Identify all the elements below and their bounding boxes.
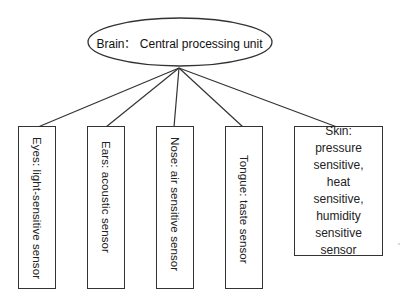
node-nose: Nose: air sensitive sensor <box>156 126 194 289</box>
link-nose <box>174 68 179 127</box>
scan-artifact <box>398 243 400 245</box>
node-tongue-label: Tongue: taste sensor <box>238 137 250 264</box>
node-ears: Ears: acoustic sensor <box>87 126 125 289</box>
root-label: Brain： Central processing unit <box>96 34 262 51</box>
link-skin <box>179 68 337 127</box>
node-tongue: Tongue: taste sensor <box>225 126 263 289</box>
node-eyes-label: Eyes: light-sensitive sensor <box>31 137 43 279</box>
node-skin-label: Skin: pressure sensitive, heat sensitive… <box>295 123 382 259</box>
node-ears-label: Ears: acoustic sensor <box>100 137 112 253</box>
node-eyes: Eyes: light-sensitive sensor <box>18 126 56 289</box>
link-tongue <box>179 68 243 127</box>
link-ears <box>106 68 179 127</box>
node-nose-label: Nose: air sensitive sensor <box>169 137 181 271</box>
link-eyes <box>38 68 179 127</box>
node-skin: Skin: pressure sensitive, heat sensitive… <box>294 126 383 256</box>
root-node-brain: Brain： Central processing unit <box>87 18 272 66</box>
